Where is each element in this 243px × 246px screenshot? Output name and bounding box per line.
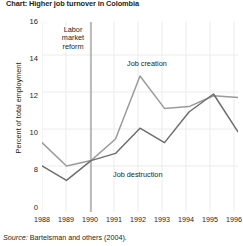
source-text: Bartelsman and others (2004). (30, 233, 127, 242)
x-tick-1992: 1992 (125, 216, 151, 224)
x-tick-1995: 1995 (197, 216, 223, 224)
x-tick-1991: 1991 (101, 216, 127, 224)
x-tick-1989: 1989 (53, 216, 79, 224)
x-tick-1990: 1990 (77, 216, 103, 224)
x-tick-1988: 1988 (29, 216, 55, 224)
source-prefix: Source: (3, 233, 28, 242)
source-note: Source: Bartelsman and others (2004). (3, 233, 127, 242)
x-tick-1996: 1996 (221, 216, 243, 224)
x-tick-1994: 1994 (173, 216, 199, 224)
chart-figure: Chart: Higher job turnover in Colombia P… (0, 0, 243, 246)
x-axis-ticks: 1988 1989 1990 1991 1992 1993 1994 1995 … (0, 0, 243, 246)
x-tick-1993: 1993 (149, 216, 175, 224)
